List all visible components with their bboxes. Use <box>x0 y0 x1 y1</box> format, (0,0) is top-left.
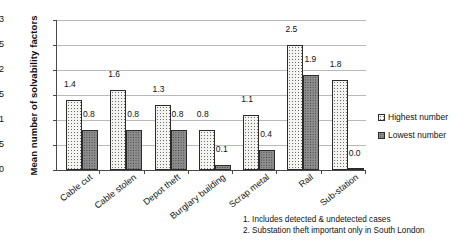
y-tick-label: 0 <box>0 164 4 174</box>
bar-low <box>126 130 142 170</box>
y-tick-mark <box>53 120 57 121</box>
bar-value-label: 0.8 <box>172 109 184 119</box>
bar-value-label: 1.8 <box>330 59 342 69</box>
bar-value-label: 0.0 <box>349 148 361 158</box>
bar-value-label: 0.8 <box>83 109 95 119</box>
y-axis-title: Mean number of solvability factors <box>28 11 39 181</box>
legend-label-highest: Highest number <box>388 112 448 122</box>
bar-value-label: 1.1 <box>241 94 253 104</box>
y-tick-mark <box>53 170 57 171</box>
bar-low <box>82 130 98 170</box>
bar-value-label: 1.9 <box>304 54 316 64</box>
bar-group: 1.80.0 <box>322 20 366 170</box>
bar-value-label: 1.4 <box>64 79 76 89</box>
y-tick-mark <box>53 45 57 46</box>
legend-swatch-highest-icon <box>378 114 385 121</box>
bar-low <box>303 75 319 170</box>
bar-value-label: 1.6 <box>108 69 120 79</box>
y-tick-mark <box>53 95 57 96</box>
y-tick-label: 0.5 <box>0 139 4 149</box>
bar-chart: Mean number of solvability factors 1.40.… <box>0 0 466 248</box>
bars: 1.60.8 <box>100 20 144 170</box>
bar-value-label: 0.1 <box>216 144 228 154</box>
bar-group: 1.60.8 <box>100 20 144 170</box>
bar-value-label: 1.3 <box>153 84 165 94</box>
legend-item-highest: Highest number <box>378 112 448 122</box>
y-tick-mark <box>53 70 57 71</box>
bar-high <box>66 100 82 170</box>
footnotes: 1. Includes detected & undetected cases … <box>243 214 425 236</box>
bar-group: 1.40.8 <box>56 20 100 170</box>
bar-high <box>332 80 348 170</box>
y-tick-label: 1.5 <box>0 89 4 99</box>
y-tick-mark <box>53 145 57 146</box>
bar-value-label: 0.8 <box>127 109 139 119</box>
bar-value-label: 0.8 <box>197 109 209 119</box>
footnote-1: 1. Includes detected & undetected cases <box>243 214 425 225</box>
y-tick-label: 3 <box>0 14 4 24</box>
y-tick-mark <box>53 20 57 21</box>
bars: 1.80.0 <box>322 20 366 170</box>
bars: 1.40.8 <box>56 20 100 170</box>
legend-label-lowest: Lowest number <box>388 130 446 140</box>
bar-value-label: 2.5 <box>285 24 297 34</box>
legend-swatch-lowest-icon <box>378 132 385 139</box>
y-tick-label: 1 <box>0 114 4 124</box>
y-tick-label: 2 <box>0 64 4 74</box>
y-tick-label: 2.5 <box>0 39 4 49</box>
footnote-2: 2. Substation theft important only in So… <box>243 225 425 236</box>
legend: Highest number Lowest number <box>378 112 448 148</box>
legend-item-lowest: Lowest number <box>378 130 448 140</box>
